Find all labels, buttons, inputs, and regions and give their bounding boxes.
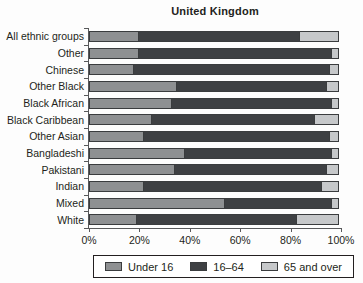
- stacked-bar: [89, 114, 341, 125]
- x-axis-tick-label: 60%: [230, 234, 251, 246]
- x-axis-tick: [240, 228, 241, 232]
- y-axis-tick: [84, 78, 88, 79]
- bar-segment-under-16: [89, 198, 225, 209]
- y-axis-tick: [84, 145, 88, 146]
- x-axis-tick-label: 80%: [280, 234, 301, 246]
- bar-segment-16-64: [138, 31, 299, 42]
- y-axis-tick: [84, 61, 88, 62]
- y-axis-tick: [84, 161, 88, 162]
- bar-row: [89, 161, 341, 178]
- stacked-bar-chart-figure: United Kingdom All ethnic groupsOtherChi…: [0, 0, 363, 283]
- bar-segment-65-and-over: [331, 98, 339, 109]
- stacked-bar: [89, 198, 341, 209]
- bar-segment-16-64: [136, 214, 297, 225]
- bar-row: [89, 78, 341, 95]
- bar-segment-under-16: [89, 114, 152, 125]
- bar-segment-16-64: [224, 198, 332, 209]
- y-axis-tick: [84, 28, 88, 29]
- y-axis-tick: [84, 95, 88, 96]
- category-label: Mixed: [0, 195, 84, 212]
- bar-segment-16-64: [143, 131, 329, 142]
- bar-segment-65-and-over: [326, 81, 339, 92]
- bar-segment-65-and-over: [321, 181, 339, 192]
- y-axis-tick: [84, 45, 88, 46]
- bar-segment-65-and-over: [299, 31, 339, 42]
- bar-segment-under-16: [89, 64, 134, 75]
- x-axis-tick: [139, 228, 140, 232]
- bar-segment-65-and-over: [326, 164, 339, 175]
- bar-segment-65-and-over: [331, 48, 339, 59]
- category-label: Black Caribbean: [0, 111, 84, 128]
- bar-segment-under-16: [89, 131, 144, 142]
- x-axis-tick-label: 40%: [179, 234, 200, 246]
- legend-swatch-16-64: [190, 262, 207, 271]
- bar-row: [89, 128, 341, 145]
- stacked-bar: [89, 131, 341, 142]
- bar-segment-65-and-over: [314, 114, 339, 125]
- bar-segment-65-and-over: [331, 148, 339, 159]
- category-label: White: [0, 211, 84, 228]
- bar-segment-65-and-over: [296, 214, 339, 225]
- bar-segment-under-16: [89, 31, 139, 42]
- bar-segment-under-16: [89, 214, 137, 225]
- x-axis-tick-label: 100%: [328, 234, 355, 246]
- bar-row: [89, 195, 341, 212]
- category-labels: All ethnic groupsOtherChineseOther Black…: [0, 28, 84, 228]
- stacked-bar: [89, 214, 341, 225]
- bar-segment-65-and-over: [329, 131, 339, 142]
- bar-row: [89, 111, 341, 128]
- category-label: Chinese: [0, 61, 84, 78]
- category-label: Other Asian: [0, 128, 84, 145]
- y-axis-tick: [84, 111, 88, 112]
- legend: Under 1616–6465 and over: [93, 255, 354, 278]
- y-axis-tick: [84, 228, 88, 229]
- stacked-bar: [89, 98, 341, 109]
- y-axis-tick: [84, 211, 88, 212]
- y-axis-tick: [84, 178, 88, 179]
- legend-item-under-16: Under 16: [105, 261, 173, 273]
- legend-swatch-65-and-over: [261, 262, 278, 271]
- x-axis-labels: 0%20%40%60%80%100%: [89, 234, 341, 247]
- bar-segment-65-and-over: [329, 64, 339, 75]
- bar-segment-under-16: [89, 48, 139, 59]
- stacked-bar: [89, 148, 341, 159]
- y-axis-tick: [84, 195, 88, 196]
- x-axis-tick-label: 20%: [129, 234, 150, 246]
- y-axis-tick: [84, 128, 88, 129]
- stacked-bar: [89, 181, 341, 192]
- legend-label: Under 16: [128, 261, 173, 273]
- bar-segment-16-64: [171, 98, 332, 109]
- bar-segment-65-and-over: [331, 198, 339, 209]
- bar-row: [89, 61, 341, 78]
- x-axis-tick: [341, 228, 342, 232]
- category-label: All ethnic groups: [0, 28, 84, 45]
- bar-segment-under-16: [89, 181, 144, 192]
- bar-row: [89, 28, 341, 45]
- legend-item-65-and-over: 65 and over: [261, 261, 342, 273]
- legend-swatch-under-16: [105, 262, 122, 271]
- legend-label: 16–64: [213, 261, 244, 273]
- bar-segment-16-64: [176, 81, 327, 92]
- category-label: Indian: [0, 178, 84, 195]
- bar-row: [89, 45, 341, 62]
- stacked-bar: [89, 48, 341, 59]
- category-label: Bangladeshi: [0, 145, 84, 162]
- bar-segment-under-16: [89, 98, 172, 109]
- bar-segment-16-64: [184, 148, 333, 159]
- x-axis-tick: [291, 228, 292, 232]
- bar-row: [89, 95, 341, 112]
- bar-segment-16-64: [133, 64, 330, 75]
- legend-item-16-64: 16–64: [190, 261, 244, 273]
- category-label: Black African: [0, 95, 84, 112]
- stacked-bar: [89, 164, 341, 175]
- bar-segment-16-64: [151, 114, 315, 125]
- chart-title: United Kingdom: [89, 5, 341, 17]
- stacked-bar: [89, 64, 341, 75]
- stacked-bar: [89, 81, 341, 92]
- x-axis-tick: [89, 228, 90, 232]
- x-axis-tick: [190, 228, 191, 232]
- bar-segment-16-64: [174, 164, 328, 175]
- legend-label: 65 and over: [284, 261, 342, 273]
- category-label: Other Black: [0, 78, 84, 95]
- category-label: Other: [0, 45, 84, 62]
